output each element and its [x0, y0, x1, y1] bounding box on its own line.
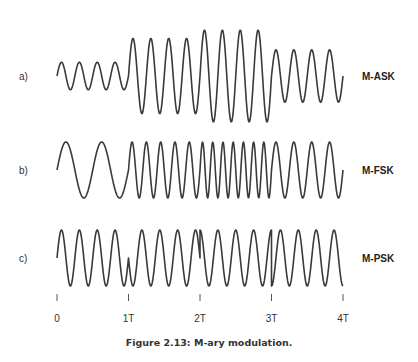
m-ary-modulation-figure: a) M-ASK b) M-FSK c) M-PSK 01T2T3T4T [0, 0, 418, 362]
tick-label: 2T [194, 313, 206, 324]
ask-waveform [57, 30, 343, 122]
row-letter-ask: a) [19, 71, 28, 82]
tick-label: 3T [266, 313, 278, 324]
psk-waveform [57, 230, 343, 286]
figure-caption: Figure 2.13: M-ary modulation. [0, 337, 418, 348]
row-letter-psk: c) [19, 253, 27, 264]
tick-label: 4T [337, 313, 349, 324]
row-name-psk: M-PSK [362, 253, 395, 264]
tick-label: 1T [123, 313, 135, 324]
tick-label: 0 [54, 313, 60, 324]
row-name-fsk: M-FSK [362, 165, 394, 176]
fsk-waveform [57, 142, 343, 198]
time-axis: 01T2T3T4T [54, 294, 349, 324]
row-letter-fsk: b) [19, 165, 28, 176]
row-name-ask: M-ASK [362, 71, 396, 82]
